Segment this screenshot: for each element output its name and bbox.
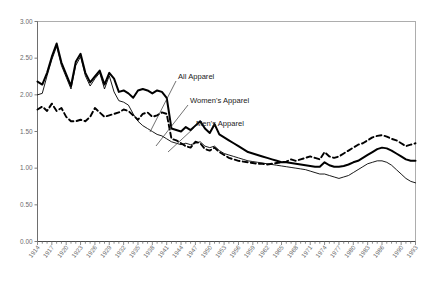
x-tick-label: 1993 (405, 243, 419, 259)
x-tick-label: 1962 (256, 243, 270, 259)
x-tick-label: 1971 (300, 243, 314, 259)
x-axis-tick-labels: 1914191719201923192619291932193519381941… (27, 243, 419, 259)
x-tick-label: 1920 (56, 243, 70, 259)
series-line (38, 44, 416, 167)
x-tick-label: 1938 (142, 243, 156, 259)
x-tick-label: 1953 (213, 243, 227, 259)
y-tick-label: 0.00 (20, 238, 33, 245)
series-line (38, 46, 416, 182)
x-axis-ticks (38, 242, 416, 246)
x-tick-label: 1914 (27, 243, 41, 259)
y-tick-label: 3.00 (20, 18, 33, 25)
y-tick-label: 2.50 (20, 54, 33, 61)
y-axis-tick-labels: 0.000.501.001.502.002.503.00 (20, 18, 33, 245)
series-annotation-label: Men's Apparel (196, 119, 244, 128)
x-tick-label: 1941 (156, 243, 170, 259)
x-tick-label: 1965 (271, 243, 285, 259)
x-tick-label: 1944 (170, 243, 184, 259)
series-annotation-label: All Apparel (178, 72, 215, 81)
x-tick-label: 1959 (242, 243, 256, 259)
series-annotation-label: Women's Apparel (190, 96, 249, 105)
x-tick-label: 1929 (99, 243, 113, 259)
chart-container: 0.000.501.001.502.002.503.00 19141917192… (0, 0, 432, 284)
x-tick-label: 1968 (285, 243, 299, 259)
y-tick-label: 0.50 (20, 201, 33, 208)
plot-frame (38, 22, 416, 242)
y-tick-label: 1.50 (20, 128, 33, 135)
x-tick-label: 1917 (41, 243, 55, 259)
x-tick-label: 1923 (70, 243, 84, 259)
line-chart: 0.000.501.001.502.002.503.00 19141917192… (0, 0, 432, 284)
annotation-labels: All ApparelWomen's ApparelMen's Apparel (178, 72, 249, 128)
x-tick-label: 1950 (199, 243, 213, 259)
x-tick-label: 1932 (113, 243, 127, 259)
x-tick-label: 1926 (84, 243, 98, 259)
x-tick-label: 1990 (390, 243, 404, 259)
x-tick-label: 1983 (357, 243, 371, 259)
x-tick-label: 1974 (314, 243, 328, 259)
leader-line (150, 81, 176, 132)
x-tick-label: 1986 (371, 243, 385, 259)
x-tick-label: 1947 (185, 243, 199, 259)
y-tick-label: 1.00 (20, 164, 33, 171)
x-tick-label: 1977 (328, 243, 342, 259)
series-line (38, 104, 416, 165)
x-tick-label: 1935 (127, 243, 141, 259)
y-tick-label: 2.00 (20, 91, 33, 98)
data-series-group (38, 44, 416, 183)
x-tick-label: 1980 (343, 243, 357, 259)
x-tick-label: 1956 (228, 243, 242, 259)
